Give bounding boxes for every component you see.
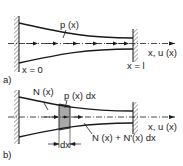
axis-label: x, u (x) xyxy=(148,121,177,132)
dx-arrow-left-icon xyxy=(48,143,59,146)
dx-label: dx xyxy=(60,139,70,150)
start-label: x = 0 xyxy=(22,64,43,75)
figure-a: p (x) x, u (x) x = 0 x = l a) xyxy=(3,16,177,85)
load-leader-line xyxy=(63,30,66,38)
x-axis-arrow-icon xyxy=(169,42,175,46)
force-right-label: N (x) + N'(x) dx xyxy=(92,132,156,143)
force-left-label: N (x) xyxy=(33,86,54,97)
dx-arrow-right-icon xyxy=(70,143,81,146)
force-left-leader xyxy=(44,103,48,110)
part-label-a: a) xyxy=(3,74,11,85)
x-axis-arrow-icon xyxy=(169,115,175,119)
axis-label: x, u (x) xyxy=(148,47,177,58)
part-label-b: b) xyxy=(3,149,11,160)
right-wall-hatch xyxy=(133,29,138,62)
load-label: p (x) xyxy=(60,19,79,30)
figure-b: dx N (x) p (x) dx N (x) + N'(x) dx x, u … xyxy=(3,86,177,160)
right-wall-hatch xyxy=(133,102,138,134)
end-label: x = l xyxy=(127,60,145,71)
bar-bottom-edge xyxy=(19,49,133,63)
bar-diagram: p (x) x, u (x) x = 0 x = l a) xyxy=(0,0,183,166)
load-label: p (x) dx xyxy=(64,90,96,101)
left-wall-hatch xyxy=(14,16,19,72)
